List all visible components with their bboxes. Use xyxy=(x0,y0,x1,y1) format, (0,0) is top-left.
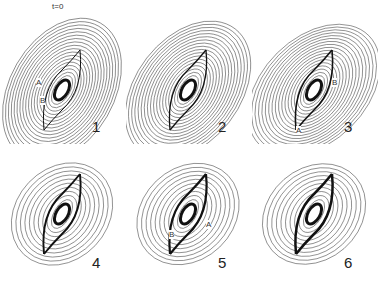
spiral-diagram xyxy=(0,0,126,144)
label-A: A xyxy=(206,220,211,229)
panel-3: 3AB xyxy=(252,0,378,144)
label-A: A xyxy=(36,78,41,87)
panel-number: 3 xyxy=(344,118,352,135)
panel-number: 6 xyxy=(344,254,352,271)
panel-number: 1 xyxy=(92,118,100,135)
panel-number: 2 xyxy=(218,118,226,135)
label-B: B xyxy=(169,230,174,239)
label-A: A xyxy=(296,126,301,135)
label-B: B xyxy=(40,96,45,105)
spiral-diagram xyxy=(252,144,378,288)
panel-2: 2 xyxy=(126,0,252,144)
label-t-eq-0: t=0 xyxy=(52,2,63,11)
label-B: B xyxy=(332,78,337,87)
panel-5: 5AB xyxy=(126,144,252,288)
spiral-diagram xyxy=(126,0,252,144)
panel-number: 4 xyxy=(92,254,100,271)
spiral-diagram xyxy=(126,144,252,288)
panel-6: 6 xyxy=(252,144,378,288)
spiral-diagram xyxy=(0,144,126,288)
panel-number: 5 xyxy=(218,254,226,271)
spiral-diagram xyxy=(252,0,378,144)
panel-4: 4 xyxy=(0,144,126,288)
panel-1: 1t=0AB xyxy=(0,0,126,144)
